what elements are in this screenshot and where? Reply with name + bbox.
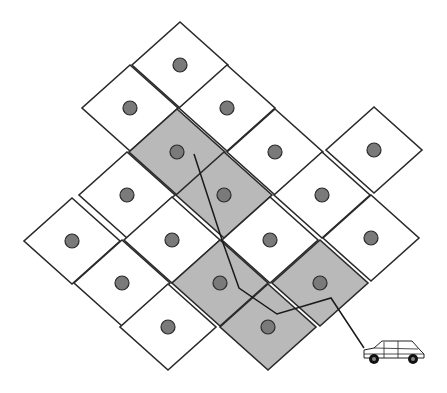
cell-center-dot [65,234,79,248]
cell-center-dot [263,233,277,247]
car-icon [364,341,424,364]
cell-center-dot [213,276,227,290]
cell-center-dot [313,276,327,290]
cell-center-dot [170,145,184,159]
cell-center-dot [268,145,282,159]
cell-center-dot [220,101,234,115]
cell-center-dot [115,276,129,290]
cell-center-dot [217,188,231,202]
diagram-canvas [0,0,447,393]
cell-center-dot [315,188,329,202]
cell-center-dot [123,101,137,115]
cell-center-dot [120,188,134,202]
cell-center-dot [367,143,381,157]
cell-center-dot [161,320,175,334]
tile-grid-diagram [0,0,447,393]
cell-center-dot [165,233,179,247]
cell-center-dot [261,320,275,334]
cell-center-dot [364,231,378,245]
cells-layer [24,22,422,370]
cell-center-dot [173,58,187,72]
